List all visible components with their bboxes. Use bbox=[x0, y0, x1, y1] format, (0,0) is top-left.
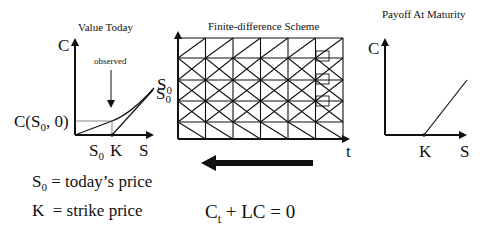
legend-k: K = strike price bbox=[32, 201, 143, 220]
finite-difference-panel: Finite-difference Scheme S0 t bbox=[157, 20, 351, 171]
pde-equation: Ct + LC = 0 bbox=[205, 201, 295, 226]
payoff-k-label: K bbox=[419, 142, 432, 161]
payoff-title: Payoff At Maturity bbox=[382, 8, 466, 20]
c-axis-label: C bbox=[58, 36, 69, 55]
payoff-c-label: C bbox=[368, 39, 379, 58]
s-axis-label: S bbox=[139, 141, 148, 160]
intrinsic-payoff-line bbox=[112, 90, 153, 135]
payoff-s-label: S bbox=[460, 142, 469, 161]
finite-difference-title: Finite-difference Scheme bbox=[208, 20, 319, 32]
s0-tick-label: S0 bbox=[89, 141, 104, 162]
payoff-line bbox=[424, 80, 467, 135]
strike-point bbox=[110, 133, 114, 137]
legend-s0: S0 = today’s price bbox=[32, 172, 152, 193]
payoff-at-maturity-panel: Payoff At Maturity C K S bbox=[368, 8, 469, 161]
t-axis-label: t bbox=[346, 142, 351, 161]
value-today-panel: Value Today C observed S0 C(S0, 0) S0 K … bbox=[14, 21, 171, 162]
legend: S0 = today’s price K = strike price bbox=[32, 172, 152, 220]
backward-time-arrow-icon bbox=[201, 155, 313, 171]
value-today-title: Value Today bbox=[78, 21, 133, 33]
finite-difference-grid bbox=[178, 38, 343, 139]
option-pricing-diagram: Value Today C observed S0 C(S0, 0) S0 K … bbox=[0, 0, 488, 233]
option-value-curve bbox=[75, 88, 154, 135]
grid-s0-label: S0 bbox=[157, 75, 172, 96]
option-value-label: C(S0, 0) bbox=[14, 112, 69, 133]
observed-annotation: observed bbox=[94, 56, 127, 66]
payoff-strike-point bbox=[422, 133, 426, 137]
k-tick-label: K bbox=[110, 141, 123, 160]
